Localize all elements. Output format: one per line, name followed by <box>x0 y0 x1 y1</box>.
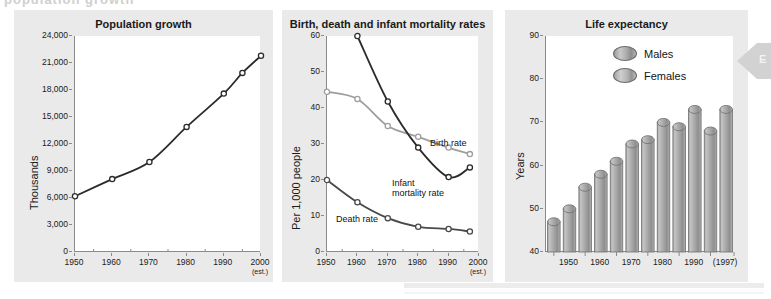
series-label-infant-line1: Infant <box>392 178 415 188</box>
life-expectancy-bar <box>720 105 733 252</box>
population-ytick: 0 <box>14 246 68 256</box>
population-ytick: 21,000 <box>14 57 68 67</box>
life-ytick: 40 <box>505 246 539 256</box>
life-expectancy-bar <box>579 183 592 252</box>
ytick-mark <box>321 251 324 252</box>
ytick-mark <box>69 62 72 63</box>
rates-ytick: 0 <box>282 246 320 256</box>
bottom-divider-secondary <box>404 292 764 294</box>
population-ytick: 9,000 <box>14 165 68 175</box>
rates-ytick: 10 <box>282 210 320 220</box>
population-ytick: 6,000 <box>14 192 68 202</box>
rates-ytick: 60 <box>282 30 320 40</box>
series-label-infant-line2: mortality rate <box>392 188 444 198</box>
life-legend-label: Females <box>644 70 686 82</box>
xtick-mark <box>111 253 112 256</box>
top-cut-text: population growth <box>0 0 771 9</box>
ytick-mark <box>321 35 324 36</box>
ytick-mark <box>321 71 324 72</box>
population-chart-title: Population growth <box>14 18 273 30</box>
ytick-mark <box>69 197 72 198</box>
edge-tab-control[interactable]: E <box>737 43 771 79</box>
life-legend-label: Males <box>644 48 673 60</box>
chart-panel-life-expectancy: Life expectancy Years MalesFemales 40506… <box>505 10 748 282</box>
bottom-divider <box>404 283 764 288</box>
life-expectancy-bar <box>626 140 639 252</box>
rates-xtick: 2000 <box>456 257 500 267</box>
series-label-death-rate: Death rate <box>336 214 378 224</box>
life-expectancy-bar <box>642 136 655 252</box>
top-cut-text-label: population growth <box>0 0 771 4</box>
life-legend: MalesFemales <box>613 46 733 92</box>
ytick-mark <box>69 89 72 90</box>
life-legend-item-males: Males <box>613 46 673 61</box>
life-expectancy-bar <box>673 123 686 252</box>
figure-page: population growth Population growth Thou… <box>0 0 771 299</box>
life-expectancy-bar <box>689 105 702 252</box>
population-xtick-note: (est.) <box>238 268 282 275</box>
xtick-mark <box>260 253 261 256</box>
xtick-mark <box>417 253 418 256</box>
chart-panel-population-growth: Population growth Thousands 03,0006,0009… <box>14 10 273 282</box>
population-series-0 <box>72 53 263 199</box>
life-ytick: 70 <box>505 116 539 126</box>
ytick-mark <box>321 107 324 108</box>
population-line-svg <box>75 36 261 252</box>
rates-series-1 <box>355 33 473 179</box>
life-legend-item-females: Females <box>613 68 686 83</box>
legend-cylinder-icon <box>613 46 637 61</box>
population-ytick: 18,000 <box>14 84 68 94</box>
population-plot-area <box>74 36 260 252</box>
ytick-mark <box>540 121 543 122</box>
chart-panel-rates: Birth, death and infant mortality rates … <box>282 10 493 282</box>
xtick-mark <box>356 253 357 256</box>
life-ytick: 50 <box>505 203 539 213</box>
ytick-mark <box>540 165 543 166</box>
ytick-mark <box>321 215 324 216</box>
xtick-mark <box>448 253 449 256</box>
ytick-mark <box>69 35 72 36</box>
life-ytick: 90 <box>505 30 539 40</box>
ytick-mark <box>540 78 543 79</box>
rates-chart-title: Birth, death and infant mortality rates <box>282 18 493 30</box>
xtick-mark <box>148 253 149 256</box>
xtick-mark <box>74 253 75 256</box>
population-ytick: 12,000 <box>14 138 68 148</box>
xtick-mark <box>326 253 327 256</box>
xtick-mark <box>223 253 224 256</box>
population-ytick: 3,000 <box>14 219 68 229</box>
ytick-mark <box>69 224 72 225</box>
life-expectancy-bar <box>548 218 561 252</box>
rates-xtick-note: (est.) <box>456 268 500 275</box>
life-ytick: 80 <box>505 73 539 83</box>
life-expectancy-bar <box>610 157 623 252</box>
xtick-mark <box>478 253 479 256</box>
life-xtick: (1997) <box>703 257 747 267</box>
rates-ytick: 30 <box>282 138 320 148</box>
series-label-infant-mortality: Infant mortality rate <box>392 178 444 198</box>
population-ytick: 15,000 <box>14 111 68 121</box>
population-xtick: 2000 <box>238 257 282 267</box>
ytick-mark <box>540 251 543 252</box>
life-expectancy-bar <box>563 205 576 252</box>
ytick-mark <box>69 170 72 171</box>
life-expectancy-bar <box>704 127 717 252</box>
series-label-birth-rate: Birth rate <box>430 138 467 148</box>
ytick-mark <box>69 143 72 144</box>
ytick-mark <box>69 251 72 252</box>
rates-ytick: 50 <box>282 66 320 76</box>
ytick-mark <box>69 116 72 117</box>
ytick-mark <box>321 179 324 180</box>
life-expectancy-bar <box>595 170 608 252</box>
legend-cylinder-icon <box>613 68 637 83</box>
xtick-mark <box>387 253 388 256</box>
rates-ytick: 40 <box>282 102 320 112</box>
ytick-mark <box>540 35 543 36</box>
population-ytick: 24,000 <box>14 30 68 40</box>
edge-tab-letter: E <box>759 53 766 65</box>
ytick-mark <box>321 143 324 144</box>
life-ytick: 60 <box>505 160 539 170</box>
life-expectancy-bar <box>657 118 670 252</box>
rates-ytick: 20 <box>282 174 320 184</box>
ytick-mark <box>540 208 543 209</box>
